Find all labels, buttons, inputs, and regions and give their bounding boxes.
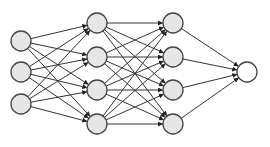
hidden-2-node-0	[163, 13, 183, 33]
neural-network-diagram	[0, 0, 270, 147]
hidden-2-node-3	[163, 114, 183, 134]
hidden-2-node-1	[163, 47, 183, 67]
edge-input-0-to-hidden-1-0	[31, 25, 88, 38]
hidden-1-node-1	[87, 47, 107, 67]
hidden-1-node-3	[87, 114, 107, 134]
input-node-1	[11, 62, 31, 82]
edge-input-2-to-hidden-1-0	[28, 30, 90, 96]
hidden-1-node-2	[87, 80, 107, 100]
edge-hidden-2-3-to-output-0	[181, 78, 239, 119]
edge-input-2-to-hidden-1-2	[31, 92, 87, 102]
hidden-1-node-0	[87, 13, 107, 33]
input-node-2	[11, 94, 31, 114]
input-node-0	[11, 31, 31, 51]
output-node-0	[237, 62, 257, 82]
connection-edges	[28, 23, 239, 124]
edge-input-1-to-hidden-1-3	[29, 78, 89, 119]
hidden-2-node-2	[163, 80, 183, 100]
edge-input-2-to-hidden-1-3	[31, 107, 88, 122]
edge-input-0-to-hidden-1-2	[29, 46, 88, 84]
edge-hidden-2-2-to-output-0	[183, 74, 238, 87]
